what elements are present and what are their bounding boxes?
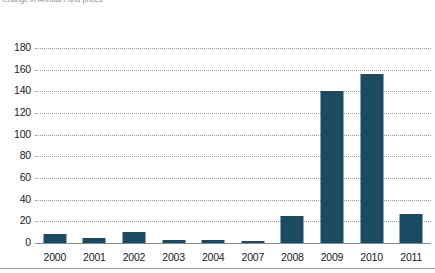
chart-title-text: Change in Annual Fund prices [2,0,103,5]
bar[interactable] [281,216,304,243]
y-tick-label: 0 [1,236,31,248]
bar[interactable] [162,240,185,243]
x-tick-label: 2008 [273,250,313,264]
bar-slot[interactable] [154,8,194,248]
y-tick-label: 100 [1,128,31,140]
bar-slot[interactable] [114,8,154,248]
y-tick-label: 140 [1,84,31,96]
bar[interactable] [360,74,383,243]
bar-slot[interactable] [193,8,233,248]
bar-slot[interactable] [391,8,431,248]
plot-area: 180160140120100806040200 [0,8,435,248]
bottom-divider [0,268,435,269]
x-axis-labels: 2000200120022003200420072008200920102011 [35,250,431,266]
bar-slot[interactable] [352,8,392,248]
x-tick-label: 2010 [352,250,392,264]
y-tick-label: 20 [1,214,31,226]
chart-title-clipped: Change in Annual Fund prices [0,0,435,6]
bar[interactable] [400,214,423,243]
bar-slot[interactable] [273,8,313,248]
bar-slot[interactable] [233,8,273,248]
y-tick-label: 40 [1,193,31,205]
bar[interactable] [122,232,145,243]
x-tick-label: 2001 [75,250,115,264]
bar[interactable] [202,240,225,243]
x-tick-label: 2002 [114,250,154,264]
bar[interactable] [320,91,343,243]
bar-slot[interactable] [35,8,75,248]
x-tick-label: 2011 [391,250,431,264]
y-tick-label: 160 [1,63,31,75]
bar[interactable] [43,234,66,243]
bar-chart-figure: Change in Annual Fund prices 18016014012… [0,0,435,273]
y-tick-label: 60 [1,171,31,183]
x-tick-label: 2009 [312,250,352,264]
y-tick-label: 80 [1,149,31,161]
bar-slot[interactable] [75,8,115,248]
bars-group [35,8,431,248]
bar[interactable] [241,241,264,243]
x-tick-label: 2000 [35,250,75,264]
bar-slot[interactable] [312,8,352,248]
bar[interactable] [83,238,106,243]
x-tick-label: 2004 [193,250,233,264]
x-tick-label: 2003 [154,250,194,264]
y-tick-label: 180 [1,41,31,53]
x-tick-label: 2007 [233,250,273,264]
y-tick-label: 120 [1,106,31,118]
